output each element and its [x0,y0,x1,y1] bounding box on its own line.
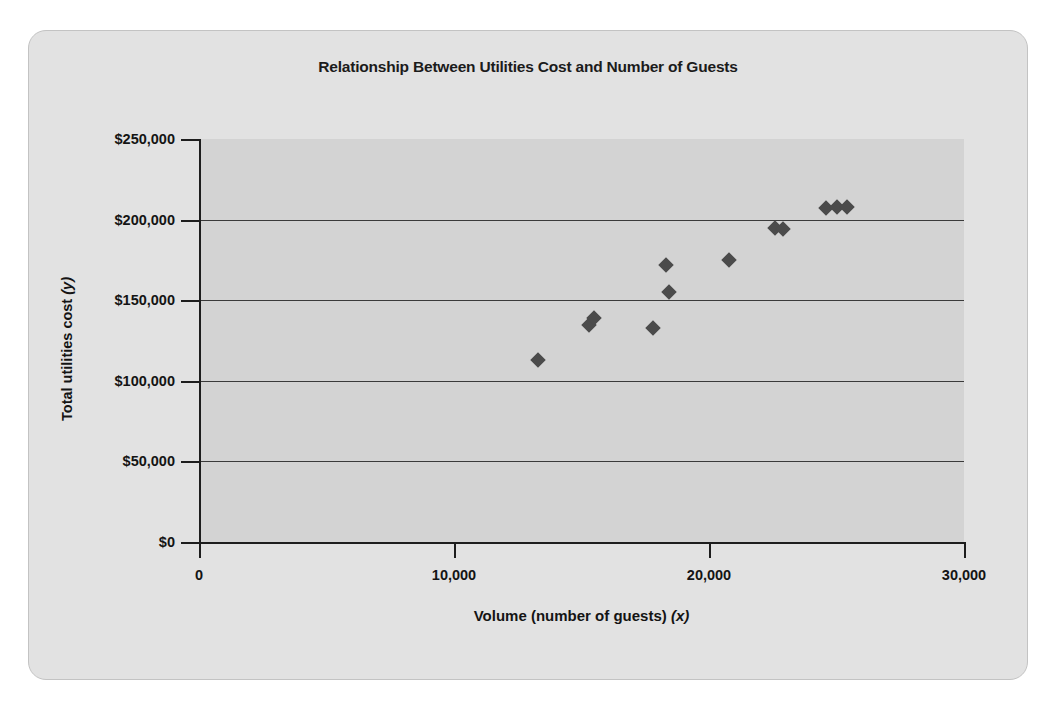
y-axis-line [199,139,201,542]
x-axis-line [199,542,964,544]
x-axis-title-text: Volume (number of guests) [474,607,671,624]
y-axis-tick-mark [181,381,199,383]
x-axis-tick-label: 0 [139,567,259,583]
x-axis-tick-label: 10,000 [394,567,514,583]
x-axis-tick-mark [199,542,201,558]
y-axis-tick-mark [181,461,199,463]
x-axis-tick-mark [454,542,456,558]
x-axis-title: Volume (number of guests) (x) [199,607,964,624]
y-axis-tick-mark [181,300,199,302]
y-axis-variable: (y) [59,277,75,295]
chart-card: Relationship Between Utilities Cost and … [28,30,1028,680]
y-axis-title: Total utilities cost (y) [59,139,75,559]
x-axis-tick-label: 30,000 [904,567,1024,583]
gridline [199,220,964,221]
x-axis-tick-label: 20,000 [649,567,769,583]
y-axis-tick-mark [181,542,199,544]
x-axis-tick-mark [964,542,966,558]
plot-area [199,139,964,542]
gridline [199,381,964,382]
x-axis-tick-mark [709,542,711,558]
chart-title: Relationship Between Utilities Cost and … [29,58,1027,76]
y-axis-tick-mark [181,220,199,222]
gridline [199,461,964,462]
y-axis-tick-mark [181,139,199,141]
x-axis-variable: (x) [671,607,689,624]
y-axis-title-text: Total utilities cost [59,295,75,421]
gridline [199,300,964,301]
